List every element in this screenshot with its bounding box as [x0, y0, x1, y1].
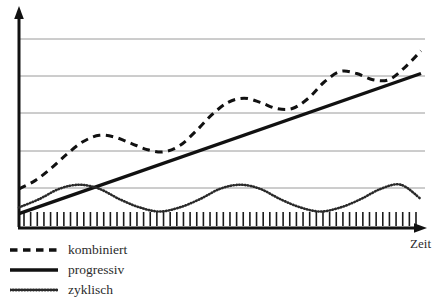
dotted-line-sample-icon — [10, 284, 58, 296]
legend-item-zyklisch[interactable]: zyklisch — [10, 280, 240, 300]
series-line-progressiv — [19, 74, 421, 214]
legend-label: kombiniert — [68, 243, 127, 257]
legend-label: zyklisch — [68, 283, 113, 297]
chart-page: Zeit kombiniert progressiv — [0, 0, 439, 307]
legend-item-kombiniert[interactable]: kombiniert — [10, 240, 240, 260]
x-axis — [18, 223, 427, 233]
legend-item-progressiv[interactable]: progressiv — [10, 260, 240, 280]
solid-line-sample-icon — [10, 264, 58, 276]
y-axis-arrow-icon — [14, 6, 24, 19]
series-line-kombiniert — [19, 51, 421, 189]
legend-label: progressiv — [68, 263, 124, 277]
x-axis-label: Zeit — [410, 236, 431, 252]
x-axis-arrow-icon — [414, 223, 427, 233]
gridlines — [19, 39, 425, 188]
x-axis-tick-marks — [24, 212, 416, 226]
chart-legend: kombiniert progressiv zyklisch — [10, 240, 240, 300]
dashed-line-sample-icon — [10, 244, 58, 256]
